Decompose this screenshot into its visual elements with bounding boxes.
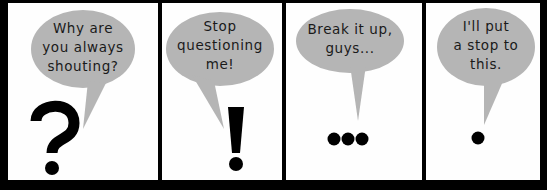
- question-mark-icon: [8, 3, 158, 180]
- panel-1: Why are you always shouting?: [8, 3, 158, 180]
- period-icon: [426, 3, 540, 180]
- panel-2: Stop questioning me!: [162, 3, 282, 180]
- ellipsis-icon: [286, 3, 422, 180]
- exclamation-mark-icon: [162, 3, 282, 180]
- panel-3: Break it up, guys...: [286, 3, 422, 180]
- comic-strip: Why are you always shouting? Stop questi…: [0, 0, 547, 190]
- panel-4: I'll put a stop to this.: [426, 3, 540, 180]
